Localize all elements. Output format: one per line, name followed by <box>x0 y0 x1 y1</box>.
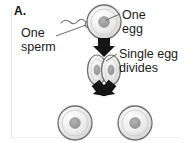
leader-line-sperm <box>56 25 86 36</box>
caption-one-sperm: One sperm <box>21 27 56 54</box>
down-arrow-icon <box>93 38 115 57</box>
daughter-cell-right-icon <box>118 106 152 140</box>
caption-single-egg-divides: Single egg divides <box>119 48 178 75</box>
nucleus-icon <box>130 118 141 129</box>
nucleus-icon <box>108 65 114 75</box>
twin-formation-diagram: A. <box>0 0 192 143</box>
nucleus-icon <box>94 65 100 75</box>
caption-one-egg: One egg <box>122 9 146 36</box>
nucleus-icon <box>99 17 110 28</box>
egg-cell-icon <box>87 5 121 39</box>
daughter-cell-left-icon <box>58 106 92 140</box>
dividing-cell-icon <box>88 55 121 85</box>
nucleus-icon <box>70 118 81 129</box>
